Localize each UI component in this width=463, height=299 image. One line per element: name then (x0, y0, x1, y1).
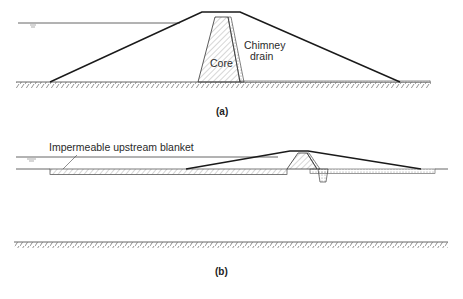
panel-a-caption: (a) (216, 106, 228, 117)
blanket-label: Impermeable upstream blanket (49, 142, 194, 153)
toe-drain-trench-b (318, 169, 328, 182)
downstream-drain-blanket-b (310, 169, 435, 174)
impermeable-upstream-blanket (50, 169, 287, 175)
water-level-symbol-a (30, 25, 36, 27)
core-label-a: Core (210, 58, 233, 69)
horizontal-drain-a (240, 81, 430, 83)
panel-b-caption: (b) (215, 266, 228, 277)
chimney-drain-label-line2: drain (250, 51, 273, 62)
foundation-ground-a (16, 82, 431, 88)
panel-b-dam-section (14, 151, 448, 248)
lower-stratum-hatch (14, 242, 448, 248)
panel-a-dam-section (16, 12, 431, 88)
water-level-symbol-b (27, 159, 36, 161)
